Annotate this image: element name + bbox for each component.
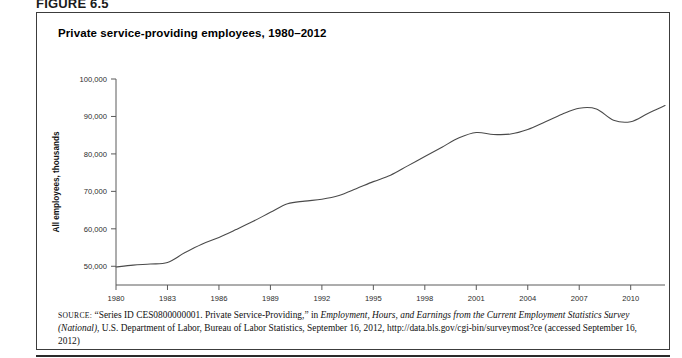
line-chart-svg: 50,00060,00070,00080,00090,000100,000 19… [37, 47, 671, 307]
chart-plot-area: 50,00060,00070,00080,00090,000100,000 19… [37, 47, 671, 307]
x-tick-label: 2007 [571, 294, 588, 303]
bottom-rule [36, 355, 670, 357]
source-prefix: SOURCE: [58, 311, 92, 320]
figure-panel: Private service-providing employees, 198… [36, 12, 670, 350]
x-tick-label: 1980 [108, 294, 125, 303]
y-axis: 50,00060,00070,00080,00090,000100,000 [80, 75, 116, 285]
x-tick-label: 1986 [210, 294, 227, 303]
x-tick-label: 1995 [365, 294, 382, 303]
x-tick-label: 1992 [313, 294, 330, 303]
source-note: SOURCE: “Series ID CES0800000001. Privat… [58, 309, 654, 349]
x-axis: 1980198319861989199219951998200120042007… [108, 285, 665, 303]
source-text-part1: “Series ID CES0800000001. Private Servic… [92, 310, 320, 320]
source-text-part2: , U.S. Department of Labor, Bureau of La… [58, 323, 637, 346]
y-tick-label: 50,000 [84, 262, 107, 271]
y-axis-title: All employees, thousands [52, 131, 61, 232]
chart-title: Private service-providing employees, 198… [58, 27, 327, 39]
data-line [116, 106, 665, 267]
y-tick-label: 100,000 [80, 75, 107, 84]
y-tick-label: 60,000 [84, 225, 107, 234]
data-series-group [116, 106, 665, 267]
x-tick-label: 2001 [468, 294, 485, 303]
x-tick-label: 2010 [622, 294, 639, 303]
figure-label: FIGURE 6.5 [36, 0, 109, 11]
x-tick-label: 2004 [519, 294, 536, 303]
y-tick-label: 70,000 [84, 187, 107, 196]
x-tick-label: 1989 [262, 294, 279, 303]
x-tick-label: 1998 [416, 294, 433, 303]
x-tick-label: 1983 [159, 294, 176, 303]
y-tick-label: 90,000 [84, 112, 107, 121]
y-tick-label: 80,000 [84, 150, 107, 159]
